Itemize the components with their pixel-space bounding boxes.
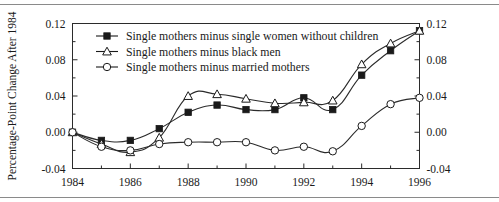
x-tick-label: 1992: [292, 176, 315, 188]
line-chart: Percentage-Point Change After 1984 -0.04…: [0, 0, 499, 202]
y-axis-left-ticks: [73, 24, 78, 169]
data-point-marker: [386, 39, 395, 47]
y-tick-label: 0.00: [45, 126, 65, 138]
chart-legend: Single mothers minus single women withou…: [96, 29, 378, 74]
data-point-marker: [300, 143, 307, 150]
data-point-marker: [214, 102, 220, 108]
data-point-marker: [358, 72, 364, 78]
data-point-marker: [387, 100, 394, 107]
x-tick-label: 1988: [177, 176, 200, 188]
data-point-marker: [416, 94, 423, 101]
data-point-marker: [156, 140, 163, 147]
figure-container: Percentage-Point Change After 1984 -0.04…: [0, 0, 499, 202]
x-axis-labels: 1984198619881990199219941996: [61, 176, 431, 188]
y-tick-label: -0.04: [42, 163, 66, 175]
x-tick-label: 1996: [408, 176, 431, 188]
data-point-marker: [328, 96, 337, 104]
data-point-marker: [127, 137, 133, 143]
y-tick-label-right: 0.00: [427, 126, 447, 138]
y-tick-label-right: -0.04: [427, 163, 451, 175]
data-point-marker: [387, 47, 393, 53]
data-point-marker: [213, 139, 220, 146]
data-point-marker: [156, 125, 162, 131]
y-tick-label-right: 0.12: [427, 18, 447, 30]
y-tick-label-right: 0.04: [427, 90, 447, 102]
y-tick-label: 0.04: [45, 90, 65, 102]
data-point-marker: [242, 139, 249, 146]
data-point-marker: [185, 109, 191, 115]
y-tick-label: 0.12: [45, 18, 65, 30]
legend-item-2: Single mothers minus black men: [96, 45, 281, 59]
series-3: [69, 94, 423, 155]
legend-item-1: Single mothers minus single women withou…: [96, 29, 378, 43]
y-tick-label-right: 0.08: [427, 54, 447, 66]
data-point-marker: [98, 143, 105, 150]
legend-label: Single mothers minus married mothers: [126, 60, 310, 74]
data-point-marker: [69, 129, 76, 136]
y-axis-right-labels: -0.040.000.040.080.12: [427, 18, 451, 175]
x-tick-label: 1990: [235, 176, 258, 188]
data-point-marker: [127, 147, 134, 154]
data-point-marker: [329, 148, 336, 155]
data-point-marker: [184, 92, 193, 100]
legend-item-3: Single mothers minus married mothers: [96, 60, 310, 74]
data-point-marker: [184, 139, 191, 146]
data-point-marker: [243, 106, 249, 112]
x-tick-label: 1984: [61, 176, 84, 188]
data-point-marker: [358, 122, 365, 129]
x-axis-ticks: [73, 164, 420, 169]
data-point-marker: [330, 106, 336, 112]
legend-marker: [104, 33, 110, 39]
x-tick-label: 1986: [119, 176, 142, 188]
data-point-marker: [271, 147, 278, 154]
y-axis-title: Percentage-Point Change After 1984: [6, 11, 19, 180]
y-axis-left-labels: -0.040.000.040.080.12: [42, 18, 66, 175]
legend-label: Single mothers minus single women withou…: [126, 29, 378, 43]
y-tick-label: 0.08: [45, 54, 65, 66]
legend-label: Single mothers minus black men: [126, 45, 281, 59]
legend-marker: [103, 63, 110, 70]
data-point-marker: [272, 106, 278, 112]
x-tick-label: 1994: [350, 176, 373, 188]
